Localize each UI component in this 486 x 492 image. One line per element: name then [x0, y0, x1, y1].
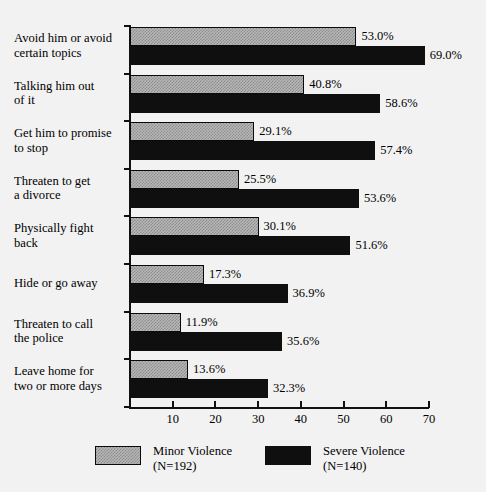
bar-value-label: 25.5% — [244, 170, 276, 189]
bar-minor — [130, 27, 356, 46]
category-label: Hide or go away — [14, 276, 124, 291]
bar-value-label: 58.6% — [385, 94, 417, 113]
bar-value-label: 69.0% — [430, 46, 462, 65]
bar-minor — [130, 313, 181, 332]
value-axis-tick — [172, 401, 174, 408]
category-label-line: Threaten to get — [14, 174, 124, 189]
category-label-line: Leave home for — [14, 364, 124, 379]
bar-value-label: 30.1% — [264, 217, 296, 236]
bar-severe — [130, 189, 359, 208]
bar-value-label: 32.3% — [273, 379, 305, 398]
category-label-line: Hide or go away — [14, 276, 124, 291]
legend-label-minor-n: (N=192) — [153, 459, 232, 474]
bar-value-label: 53.6% — [364, 189, 396, 208]
bar-severe — [130, 141, 375, 160]
category-label-line: Talking him out — [14, 79, 124, 94]
bar-value-label: 35.6% — [287, 332, 319, 351]
bar-minor — [130, 75, 304, 94]
bar-severe — [130, 94, 380, 113]
legend-label-minor-name: Minor Violence — [153, 444, 232, 458]
value-axis-tick — [300, 401, 302, 408]
bar-minor — [130, 122, 254, 141]
category-label: Avoid him or avoidcertain topics — [14, 31, 124, 60]
category-label-line: the police — [14, 331, 124, 346]
category-label: Get him to promiseto stop — [14, 126, 124, 155]
bar-value-label: 36.9% — [293, 284, 325, 303]
value-axis-line — [129, 407, 429, 409]
category-label: Threaten to callthe police — [14, 317, 124, 346]
legend-swatch-minor-violence — [95, 446, 141, 465]
category-label: Physically fightback — [14, 221, 124, 250]
bar-value-label: 57.4% — [380, 141, 412, 160]
bar-minor — [130, 170, 239, 189]
bar-severe — [130, 379, 268, 398]
value-axis-tick-label: 40 — [281, 412, 321, 427]
value-axis-tick — [214, 401, 216, 408]
legend-label-severe-name: Severe Violence — [323, 444, 405, 458]
bar-minor — [130, 217, 259, 236]
bar-minor — [130, 360, 188, 379]
value-axis-tick-label: 60 — [366, 412, 406, 427]
value-axis-tick — [129, 401, 131, 408]
category-label-line: of it — [14, 93, 124, 108]
legend-label-minor-violence: Minor Violence (N=192) — [153, 444, 232, 473]
value-axis-tick — [385, 401, 387, 408]
category-label: Threaten to geta divorce — [14, 174, 124, 203]
value-axis-tick-label: 50 — [324, 412, 364, 427]
bar-value-label: 51.6% — [355, 236, 387, 255]
bar-severe — [130, 284, 288, 303]
plot-area: 10203040506070 Avoid him or avoidcertain… — [0, 0, 486, 430]
bar-value-label: 17.3% — [209, 265, 241, 284]
legend-swatch-severe-violence — [265, 446, 311, 465]
value-axis-tick-label: 70 — [409, 412, 449, 427]
category-label-line: a divorce — [14, 188, 124, 203]
bar-severe — [130, 236, 350, 255]
value-axis-tick-label: 20 — [195, 412, 235, 427]
category-label: Talking him outof it — [14, 79, 124, 108]
category-label-line: certain topics — [14, 46, 124, 61]
category-label-line: two or more days — [14, 379, 124, 394]
bar-value-label: 53.0% — [361, 27, 393, 46]
category-label-line: back — [14, 236, 124, 251]
bar-value-label: 29.1% — [259, 122, 291, 141]
category-label-line: Get him to promise — [14, 126, 124, 141]
value-axis-tick-label: 10 — [153, 412, 193, 427]
value-axis-tick — [428, 401, 430, 408]
category-label-line: Physically fight — [14, 221, 124, 236]
category-label-line: Threaten to call — [14, 317, 124, 332]
bar-minor — [130, 265, 204, 284]
legend-label-severe-violence: Severe Violence (N=140) — [323, 444, 405, 473]
bar-value-label: 40.8% — [309, 75, 341, 94]
bar-severe — [130, 46, 425, 65]
value-axis-tick — [257, 401, 259, 408]
bar-value-label: 11.9% — [186, 313, 218, 332]
bar-severe — [130, 332, 282, 351]
horizontal-bar-chart: 10203040506070 Avoid him or avoidcertain… — [0, 0, 486, 492]
chart-legend: Minor Violence (N=192) Severe Violence (… — [0, 444, 486, 490]
value-axis-tick-label: 30 — [238, 412, 278, 427]
category-label: Leave home fortwo or more days — [14, 364, 124, 393]
category-label-line: Avoid him or avoid — [14, 31, 124, 46]
category-label-line: to stop — [14, 141, 124, 156]
legend-label-severe-n: (N=140) — [323, 459, 405, 474]
value-axis-tick — [343, 401, 345, 408]
bar-value-label: 13.6% — [193, 360, 225, 379]
